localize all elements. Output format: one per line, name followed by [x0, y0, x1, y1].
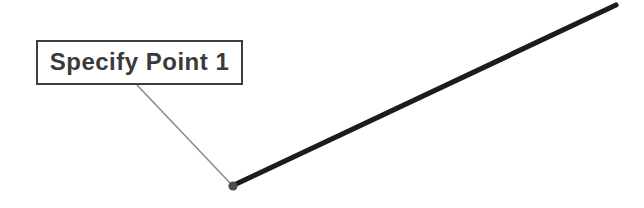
diagram-canvas: Specify Point 1	[0, 0, 644, 208]
callout-box: Specify Point 1	[36, 40, 243, 85]
leader-line	[137, 85, 231, 184]
line-segment	[234, 5, 616, 185]
point-marker-icon	[228, 181, 237, 190]
callout-label: Specify Point 1	[50, 50, 230, 76]
diagram-drawing	[0, 0, 644, 208]
